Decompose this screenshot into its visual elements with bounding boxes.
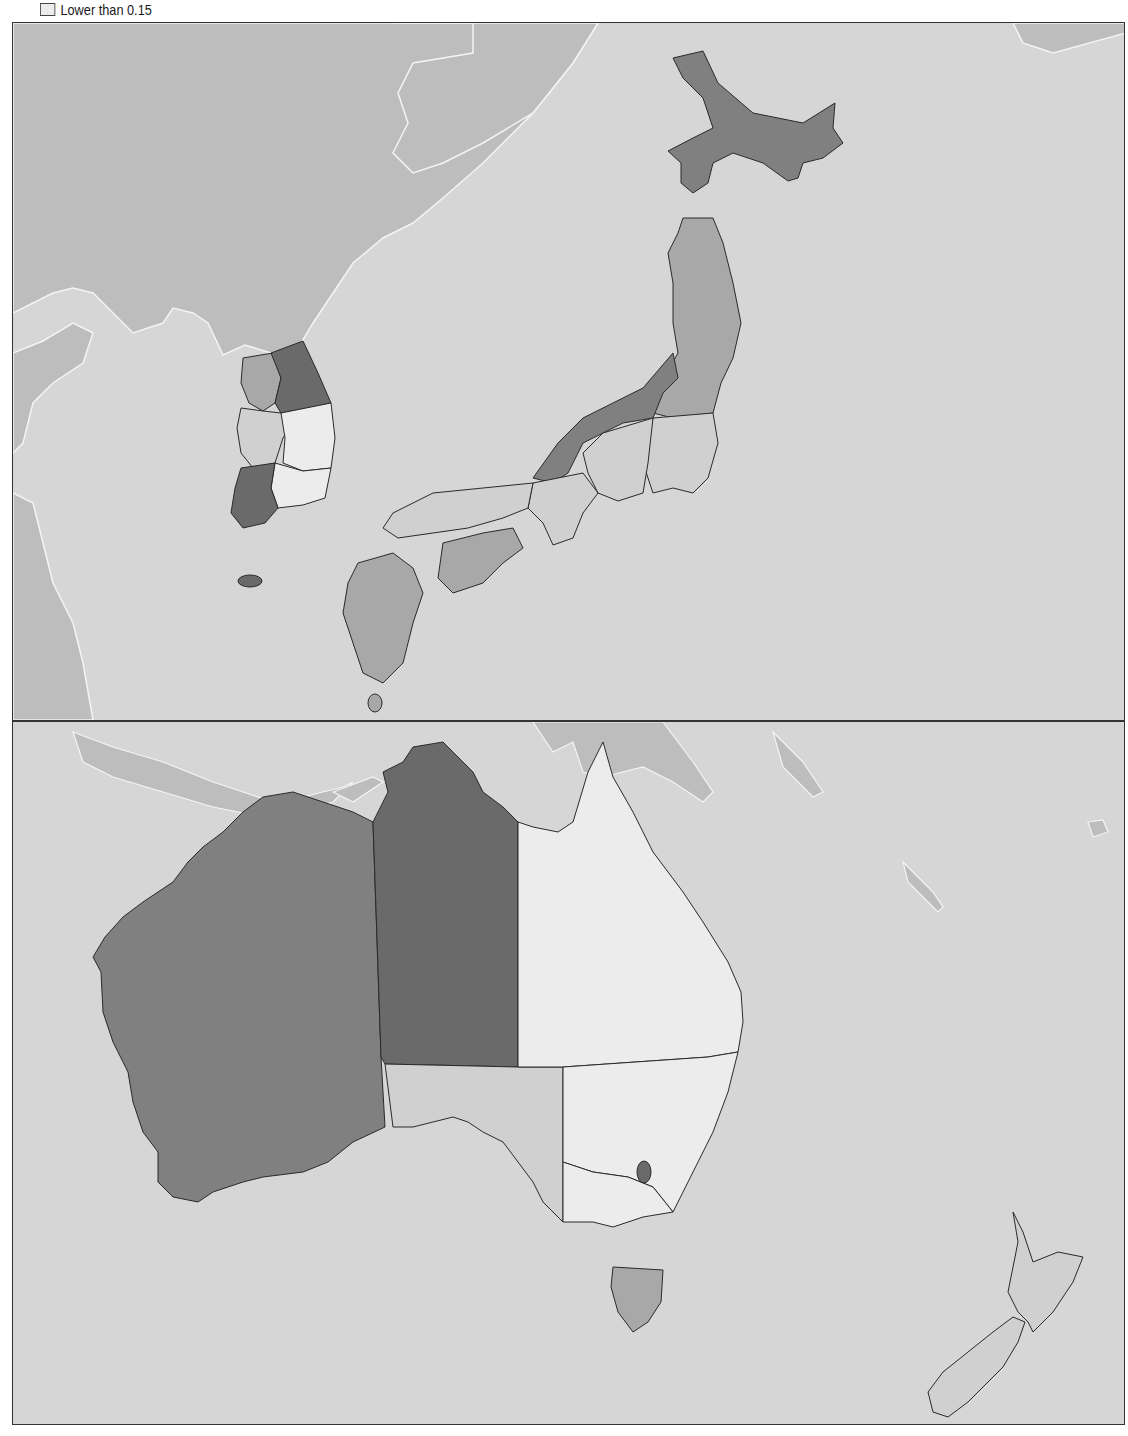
map-panel-oceania <box>13 722 1124 1425</box>
region-kr-gyeongbuk <box>281 403 335 471</box>
map-legend: Lower than 0.15 <box>40 0 152 18</box>
region-jp-island <box>368 694 382 712</box>
region-kr-jeju <box>238 575 262 587</box>
legend-swatch-lowest <box>40 3 55 16</box>
map-panel-east-asia <box>13 23 1124 720</box>
legend-label-lowest: Lower than 0.15 <box>60 1 151 18</box>
map-frame <box>12 22 1125 1425</box>
region-au-act <box>637 1161 651 1183</box>
